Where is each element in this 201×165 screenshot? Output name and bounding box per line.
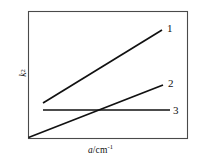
- y-axis-symbol: k: [18, 73, 28, 77]
- curve-label-2: 2: [168, 77, 174, 89]
- x-axis-exponent: -1: [107, 143, 113, 150]
- x-axis-label: a/cm-1: [0, 144, 201, 156]
- curve-label-1: 1: [167, 22, 173, 34]
- curve-label-3: 3: [173, 104, 179, 116]
- plot-frame: [29, 12, 188, 139]
- figure-container: 1 2 3 a/cm-1 k2: [0, 0, 201, 165]
- x-axis-unit: /cm: [93, 145, 108, 155]
- y-axis-label: k2: [8, 58, 38, 88]
